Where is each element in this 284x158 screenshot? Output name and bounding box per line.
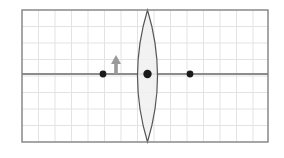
object-arrow-shaft — [114, 63, 118, 74]
focal-point-right — [187, 71, 194, 78]
ray-diagram-svg — [0, 0, 284, 158]
lens-center-point — [143, 70, 151, 78]
optics-diagram-canvas — [0, 0, 284, 158]
object-base-point — [100, 71, 107, 78]
